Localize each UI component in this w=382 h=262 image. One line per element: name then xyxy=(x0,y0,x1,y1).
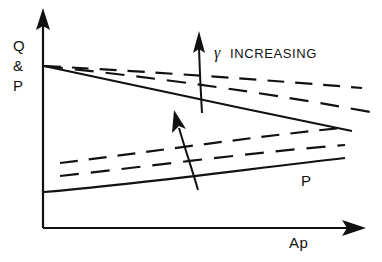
y-axis-label-amp: & xyxy=(13,57,23,74)
p-curve-gamma-high xyxy=(60,128,341,163)
q-curve-family xyxy=(44,66,370,131)
chart-svg: Q & P Ap γ INCREASING P xyxy=(0,0,382,262)
figure-canvas: Q & P Ap γ INCREASING P xyxy=(0,0,382,262)
y-axis-label-p: P xyxy=(13,77,23,94)
increasing-label: INCREASING xyxy=(230,46,317,61)
upper-gamma-arrow-shaft xyxy=(199,48,202,113)
q-curve-gamma-mid xyxy=(44,66,370,112)
gamma-symbol: γ xyxy=(214,44,221,62)
y-axis-label-q: Q xyxy=(13,37,25,54)
direction-arrow-group xyxy=(172,31,205,190)
x-axis-label: Ap xyxy=(289,234,308,251)
lower-gamma-arrow-shaft xyxy=(179,128,198,190)
p-curve-family xyxy=(44,128,345,192)
p-curve-label: P xyxy=(301,172,311,189)
